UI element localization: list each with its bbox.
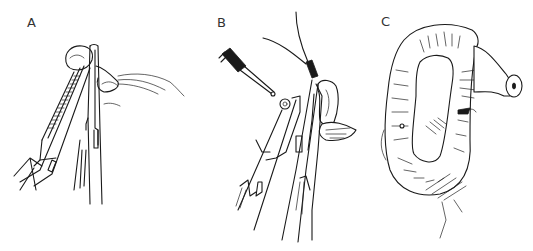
medical-illustration-figure: A B C: [0, 0, 533, 251]
panel-c-drawing: [0, 0, 533, 251]
